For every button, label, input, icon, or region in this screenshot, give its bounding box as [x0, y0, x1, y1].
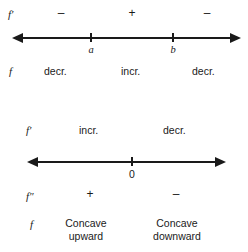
sign-middle-chart1: +	[124, 7, 140, 19]
concavity-right-line1: Concave	[141, 217, 213, 230]
behavior-middle-chart1: incr.	[121, 66, 140, 77]
behavior-right-chart1: decr.	[192, 66, 215, 77]
tick-zero-chart2	[131, 157, 133, 166]
tick-b-chart1	[172, 33, 174, 42]
tick-label-zero: 0	[124, 169, 140, 180]
axis-shaft-chart1	[22, 37, 236, 39]
behavior-left-chart1: decr.	[44, 66, 67, 77]
concavity-left-line1: Concave	[55, 217, 117, 230]
sign-chart-figure: f′ – + – a b f decr. incr. decr. f′ incr…	[0, 0, 248, 252]
row-label-f-chart1: f	[9, 66, 12, 77]
concavity-left-line2: upward	[55, 230, 117, 243]
concavity-right-line2: downward	[141, 230, 213, 243]
row-label-f-prime-chart2: f′	[26, 125, 31, 136]
sign-left-chart1: –	[53, 7, 69, 19]
sign-right-chart1: –	[199, 7, 215, 19]
row-label-f-double-prime-chart2: f″	[26, 191, 34, 202]
monotonic-right-chart2: decr.	[163, 125, 186, 136]
number-line-chart1	[0, 37, 248, 39]
number-line-chart2	[0, 161, 248, 163]
axis-shaft-chart2	[37, 161, 221, 163]
monotonic-left-chart2: incr.	[79, 125, 98, 136]
arrow-right-icon-chart2	[215, 157, 226, 167]
row-label-f-chart2: f	[30, 219, 33, 230]
sign-left-chart2: +	[82, 188, 98, 200]
tick-label-b: b	[165, 45, 181, 56]
concavity-left-chart2: Concave upward	[55, 217, 117, 242]
tick-a-chart1	[90, 33, 92, 42]
arrow-left-icon-chart2	[27, 157, 38, 167]
row-label-f-prime-chart1: f′	[8, 9, 13, 20]
concavity-right-chart2: Concave downward	[141, 217, 213, 242]
tick-label-a: a	[83, 45, 99, 56]
arrow-left-icon-chart1	[12, 33, 23, 43]
sign-right-chart2: –	[168, 188, 184, 200]
arrow-right-icon-chart1	[230, 33, 241, 43]
